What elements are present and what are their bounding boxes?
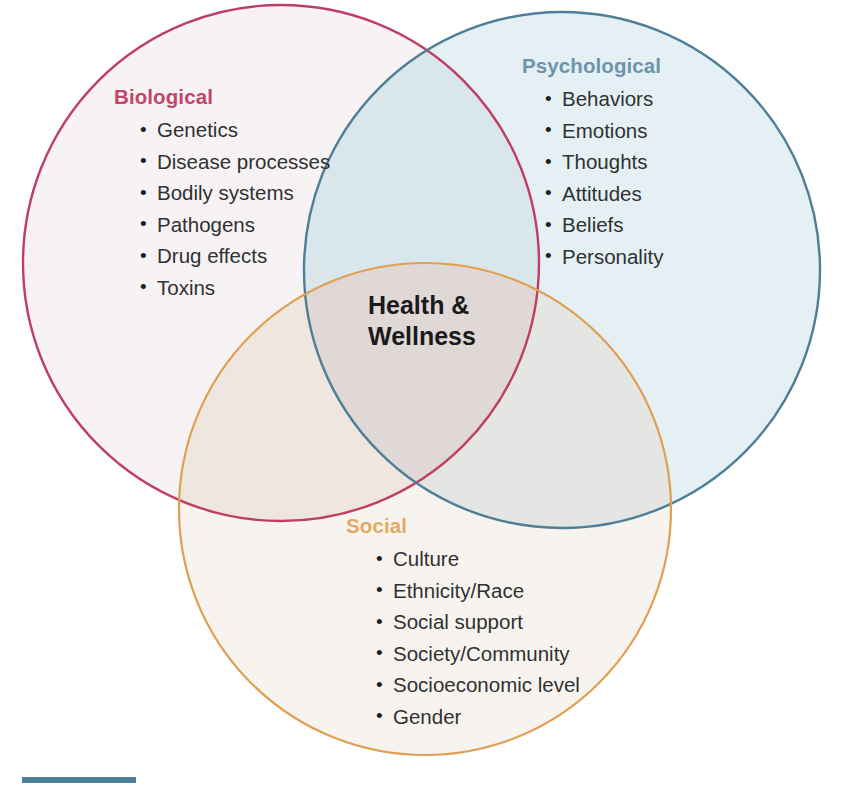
list-item: Emotions: [545, 115, 663, 147]
center-intersection-label: Health & Wellness: [368, 290, 548, 352]
list-item: Thoughts: [545, 146, 663, 178]
list-item: Pathogens: [140, 209, 330, 241]
list-item: Gender: [376, 701, 580, 733]
list-item: Drug effects: [140, 240, 330, 272]
group-biological-list: Genetics Disease processes Bodily system…: [112, 114, 330, 303]
list-item: Personality: [545, 241, 663, 273]
center-label-line-2: Wellness: [368, 321, 548, 352]
list-item: Beliefs: [545, 209, 663, 241]
group-biological-title: Biological: [112, 85, 330, 109]
group-biological: Biological Genetics Disease processes Bo…: [112, 85, 330, 303]
list-item: Genetics: [140, 114, 330, 146]
group-psychological-list: Behaviors Emotions Thoughts Attitudes Be…: [520, 83, 663, 272]
list-item: Ethnicity/Race: [376, 575, 580, 607]
group-social-list: Culture Ethnicity/Race Social support So…: [344, 543, 580, 732]
list-item: Socioeconomic level: [376, 669, 580, 701]
list-item: Bodily systems: [140, 177, 330, 209]
bottom-left-rule: [22, 777, 136, 783]
list-item: Behaviors: [545, 83, 663, 115]
venn-diagram: Biological Genetics Disease processes Bo…: [0, 0, 844, 786]
list-item: Social support: [376, 606, 580, 638]
list-item: Attitudes: [545, 178, 663, 210]
group-social-title: Social: [344, 514, 580, 538]
list-item: Culture: [376, 543, 580, 575]
group-psychological: Psychological Behaviors Emotions Thought…: [520, 54, 663, 272]
list-item: Society/Community: [376, 638, 580, 670]
list-item: Toxins: [140, 272, 330, 304]
group-psychological-title: Psychological: [520, 54, 663, 78]
list-item: Disease processes: [140, 146, 330, 178]
center-label-line-1: Health &: [368, 290, 548, 321]
group-social: Social Culture Ethnicity/Race Social sup…: [344, 514, 580, 732]
